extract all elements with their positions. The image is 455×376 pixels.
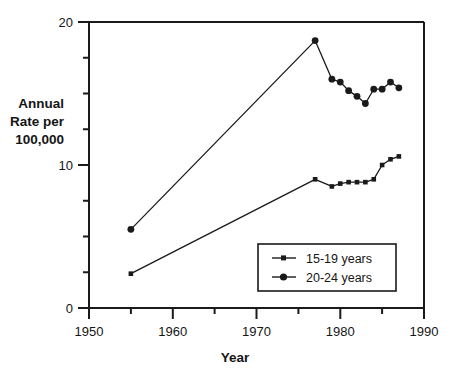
- chart-background: [0, 0, 455, 376]
- x-tick-label-1970: 1970: [242, 324, 271, 339]
- line-chart: 20 10 0 1950 1960 1970 1980 1990 Annual …: [0, 0, 455, 376]
- data-point: [379, 86, 386, 93]
- data-point: [355, 180, 360, 185]
- legend: 15-19 years 20-24 years: [258, 244, 396, 291]
- legend-marker-15-19: [281, 255, 286, 260]
- x-axis-title: Year: [221, 350, 250, 365]
- legend-label-15-19: 15-19 years: [306, 252, 372, 266]
- x-tick-label-1960: 1960: [158, 324, 187, 339]
- legend-label-20-24: 20-24 years: [306, 271, 372, 285]
- data-point: [380, 163, 385, 168]
- data-point: [354, 93, 361, 100]
- data-point: [338, 181, 343, 186]
- y-axis-title: Annual Rate per 100,000: [10, 96, 65, 147]
- y-tick-label-20: 20: [59, 15, 73, 30]
- x-tick-label-1950: 1950: [75, 324, 104, 339]
- data-point: [395, 84, 402, 91]
- data-point: [346, 180, 351, 185]
- data-point: [313, 177, 318, 182]
- y-axis-title-line-2: Rate per: [10, 114, 65, 129]
- data-point: [387, 79, 394, 86]
- y-tick-label-0: 0: [66, 301, 73, 316]
- x-tick-label-1980: 1980: [326, 324, 355, 339]
- data-point: [363, 180, 368, 185]
- data-point: [370, 86, 377, 93]
- data-point: [129, 271, 134, 276]
- x-tick-label-1990: 1990: [410, 324, 439, 339]
- data-point: [328, 76, 335, 83]
- y-axis-title-line-1: Annual: [18, 96, 64, 111]
- data-point: [371, 177, 376, 182]
- legend-marker-20-24: [280, 273, 287, 280]
- data-point: [362, 100, 369, 107]
- data-point: [388, 157, 393, 162]
- y-tick-label-10: 10: [59, 158, 73, 173]
- data-point: [337, 79, 344, 86]
- chart-figure: 20 10 0 1950 1960 1970 1980 1990 Annual …: [0, 0, 455, 376]
- data-point: [127, 226, 134, 233]
- data-point: [312, 37, 319, 44]
- y-axis-title-line-3: 100,000: [15, 132, 64, 147]
- data-point: [397, 154, 402, 159]
- data-point: [330, 184, 335, 189]
- data-point: [345, 87, 352, 94]
